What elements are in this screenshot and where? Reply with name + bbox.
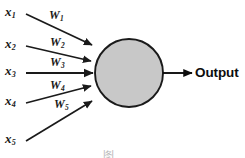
input-label-x4-subscript: 4	[12, 100, 16, 109]
input-label-x2: x2	[5, 37, 16, 50]
weight-label-w4-symbol: W	[50, 78, 61, 92]
input-label-x1: x1	[5, 5, 16, 18]
weight-label-w2-symbol: W	[50, 35, 61, 49]
weight-label-w1-subscript: 1	[60, 14, 64, 23]
weight-label-w3-subscript: 3	[61, 61, 65, 70]
input-label-x5: x5	[5, 132, 16, 145]
weight-label-w5: W5	[54, 98, 68, 110]
weight-label-w2: W2	[50, 36, 64, 48]
neuron-diagram-figure: x1 x2 x3 x4 x5 W1 W2 W3 W4 W5 Output 图	[0, 0, 245, 158]
input-label-x2-subscript: 2	[12, 43, 16, 52]
weight-label-w5-symbol: W	[54, 97, 65, 111]
input-label-x1-symbol: x	[5, 4, 12, 19]
output-label: Output	[195, 66, 239, 80]
weight-label-w2-subscript: 2	[61, 41, 65, 50]
input-label-x5-subscript: 5	[12, 138, 16, 147]
input-label-x3: x3	[5, 64, 16, 77]
neuron-body-circle	[95, 39, 163, 107]
input-label-x5-symbol: x	[5, 131, 12, 146]
input-label-x4-symbol: x	[5, 93, 12, 108]
weight-label-w1-symbol: W	[49, 8, 60, 22]
input-label-x3-symbol: x	[5, 63, 12, 78]
weight-label-w1: W1	[49, 9, 63, 21]
weight-label-w3-symbol: W	[50, 55, 61, 69]
input-label-x1-subscript: 1	[12, 11, 16, 20]
weight-label-w5-subscript: 5	[65, 103, 69, 112]
weight-label-w4-subscript: 4	[61, 84, 65, 93]
caption-fragment: 图	[103, 150, 147, 158]
input-label-x4: x4	[5, 94, 16, 107]
input-label-x2-symbol: x	[5, 36, 12, 51]
input-label-x3-subscript: 3	[12, 70, 16, 79]
weight-label-w3: W3	[50, 56, 64, 68]
weight-label-w4: W4	[50, 79, 64, 91]
